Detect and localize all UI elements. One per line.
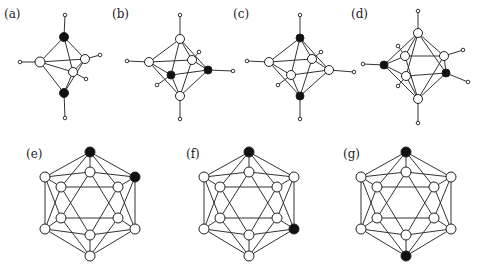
vertex-white: [372, 213, 382, 223]
polyhedra-diagram: [0, 0, 480, 268]
vertex-white: [35, 57, 45, 67]
graph-edge: [149, 62, 180, 96]
vertex-white: [113, 213, 123, 223]
vertex-white: [85, 167, 95, 177]
vertex-white: [199, 172, 209, 182]
vertex-white: [401, 52, 410, 61]
panel-label-d: (d): [351, 8, 368, 20]
vertex-white: [356, 224, 366, 234]
vertex-white: [401, 230, 411, 240]
vertex-white: [56, 213, 66, 223]
ligand-node: [276, 83, 280, 87]
ligand-node: [319, 50, 323, 54]
vertex-white: [40, 224, 50, 234]
panel-g: [356, 147, 456, 261]
figure-canvas: (a) (b) (c) (d) (e) (f) (g): [0, 0, 480, 268]
graph-edge: [406, 229, 451, 235]
vertex-black: [167, 71, 175, 79]
vertex-white: [440, 52, 449, 61]
ligand-node: [197, 50, 201, 54]
panel-c: [245, 13, 356, 121]
graph-edge: [90, 229, 135, 256]
vertex-black: [244, 147, 254, 157]
graph-edge: [249, 229, 294, 256]
graph-edge: [291, 70, 329, 75]
graph-edge: [269, 59, 312, 62]
graph-edge: [204, 229, 249, 235]
vertex-white: [401, 167, 411, 177]
ligand-node: [63, 116, 67, 120]
graph-edge: [204, 229, 249, 256]
vertex-white: [199, 224, 209, 234]
panel-b: [125, 13, 235, 121]
ligand-node: [396, 44, 400, 48]
vertex-white: [69, 68, 78, 77]
graph-edge: [269, 62, 300, 96]
vertex-black: [85, 147, 95, 157]
ligand-node: [155, 83, 159, 87]
vertex-black: [60, 33, 69, 42]
vertex-white: [85, 251, 95, 261]
panel-d: [361, 9, 470, 125]
ligand-node: [18, 60, 22, 64]
ligand-node: [396, 84, 400, 88]
ligand-node: [298, 13, 302, 17]
graph-edge: [40, 62, 64, 93]
ligand-node: [125, 59, 129, 63]
vertex-white: [446, 172, 456, 182]
ligand-node: [298, 117, 302, 121]
panel-label-g: (g): [343, 148, 360, 160]
graph-edge: [418, 56, 444, 99]
vertex-white: [372, 182, 382, 192]
vertex-white: [272, 182, 282, 192]
ligand-node: [231, 69, 235, 73]
panel-label-e: (e): [26, 148, 42, 160]
graph-edge: [45, 229, 90, 256]
graph-edge: [418, 73, 446, 99]
ligand-node: [416, 9, 420, 13]
vertex-white: [188, 56, 197, 65]
graph-edge: [180, 39, 208, 70]
vertex-white: [287, 71, 296, 80]
panel-label-c: (c): [233, 8, 249, 20]
graph-edge: [171, 70, 208, 75]
ligand-node: [361, 62, 365, 66]
vertex-white: [40, 172, 50, 182]
panel-f: [199, 147, 299, 261]
graph-edge: [300, 38, 329, 70]
vertex-white: [356, 172, 366, 182]
vertex-white: [308, 55, 317, 64]
graph-edge: [249, 229, 294, 235]
ligand-node: [245, 59, 249, 63]
vertex-black: [296, 34, 304, 42]
vertex-black: [204, 66, 212, 74]
graph-edge: [40, 59, 85, 62]
graph-edge: [149, 60, 192, 62]
ligand-node: [63, 13, 67, 17]
ligand-node: [178, 13, 182, 17]
vertex-white: [325, 66, 334, 75]
graph-edge: [45, 229, 90, 235]
graph-edge: [90, 229, 135, 235]
ligand-node: [178, 117, 182, 121]
ligand-node: [98, 53, 102, 57]
ligand-node: [416, 121, 420, 125]
vertex-white: [265, 58, 274, 67]
vertex-white: [176, 92, 185, 101]
panel-e: [40, 147, 140, 261]
panel-label-b: (b): [112, 8, 129, 20]
graph-edge: [406, 73, 446, 76]
vertex-black: [380, 61, 388, 69]
vertex-white: [272, 213, 282, 223]
graph-edge: [418, 33, 444, 56]
vertex-black: [60, 89, 69, 98]
vertex-white: [215, 213, 225, 223]
ligand-node: [461, 48, 465, 52]
graph-edge: [384, 33, 418, 65]
panel-label-a: (a): [4, 8, 21, 20]
vertex-black: [401, 251, 411, 261]
vertex-white: [244, 230, 254, 240]
vertex-black: [442, 69, 450, 77]
vertex-white: [414, 95, 423, 104]
graph-edge: [406, 229, 451, 256]
